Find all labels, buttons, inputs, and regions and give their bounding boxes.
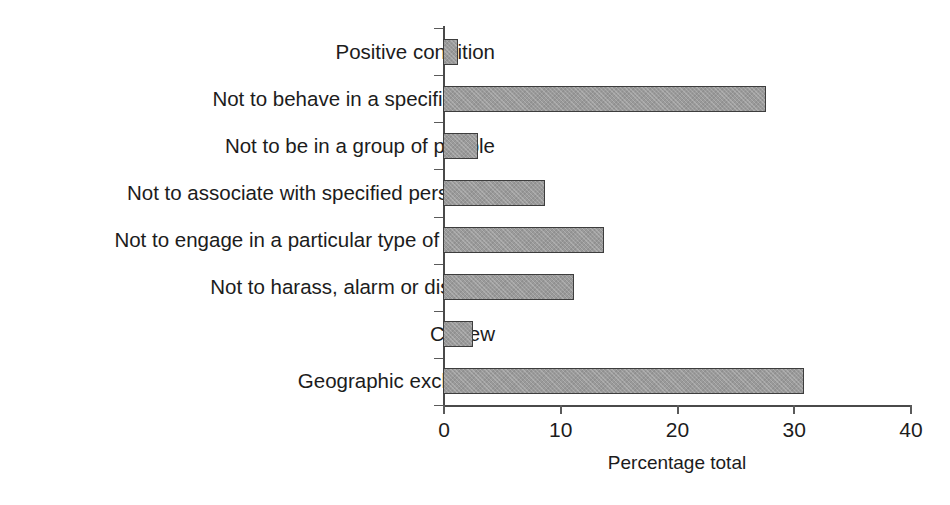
bar	[443, 133, 478, 159]
x-axis-tick	[793, 405, 795, 414]
x-axis-tick-label: 40	[899, 418, 922, 442]
y-axis-tick	[434, 75, 443, 76]
y-axis-tick	[434, 217, 443, 218]
x-axis-tick-label: 30	[783, 418, 806, 442]
x-axis-tick	[560, 405, 562, 414]
y-axis-tick	[434, 358, 443, 359]
y-axis-tick	[434, 122, 443, 123]
category-label: Not to engage in a particular type of cr…	[114, 228, 495, 252]
bar	[443, 86, 766, 112]
y-axis-tick	[434, 311, 443, 312]
bar-chart-figure: Percentage total Positive conditionNot t…	[0, 0, 950, 505]
chart-title	[0, 0, 950, 4]
bar	[443, 274, 574, 300]
bar	[443, 180, 545, 206]
plot-area	[443, 28, 910, 405]
bar	[443, 321, 473, 347]
y-axis-tick	[434, 264, 443, 265]
x-axis-tick	[443, 405, 445, 414]
x-axis-tick	[677, 405, 679, 414]
category-label: Positive condition	[335, 40, 495, 64]
bar	[443, 368, 804, 394]
bar	[443, 227, 604, 253]
x-axis-tick	[910, 405, 912, 414]
x-axis-label: Percentage total	[443, 452, 911, 474]
bar	[443, 39, 458, 65]
x-axis-tick-label: 10	[549, 418, 572, 442]
y-axis-tick	[434, 405, 443, 406]
y-axis-tick	[434, 169, 443, 170]
x-axis-tick-label: 20	[666, 418, 689, 442]
y-axis-tick	[434, 28, 443, 29]
x-axis-tick-label: 0	[438, 418, 450, 442]
category-label: Not to associate with specified person(s…	[127, 181, 495, 205]
